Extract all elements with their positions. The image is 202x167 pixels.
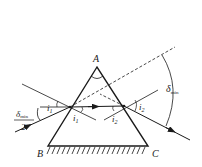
vertex-c-label: C: [152, 148, 159, 159]
half-deviation-arc: [37, 108, 40, 120]
incidence-angle-label: i1: [47, 103, 53, 114]
i1-incidence-arc: [57, 101, 58, 107]
exit-angle-label: i2: [139, 102, 145, 113]
half-deviation-numerator: δmin: [16, 109, 28, 119]
prism-svg: A B C i1 i1 i2 i2 δmin δmin 2: [0, 0, 202, 167]
emergent-arrow-icon: [166, 128, 174, 132]
i2-exit-arc: [135, 100, 137, 111]
vertex-b-label: B: [37, 148, 43, 159]
i1-refraction-arc: [81, 107, 83, 112]
apex-label: A: [92, 53, 100, 64]
refraction-angle-1-label: i1: [73, 113, 79, 124]
right-refraction-point: [123, 105, 126, 108]
left-normal-line: [22, 84, 96, 120]
refraction-angle-2-label: i2: [112, 114, 118, 125]
i2-refraction-arc: [113, 106, 114, 111]
apex-angle-arc: [91, 76, 103, 79]
prism-diagram: A B C i1 i1 i2 i2 δmin δmin 2: [0, 0, 202, 167]
base-hatching: [47, 147, 145, 154]
half-deviation-denominator: 2: [21, 122, 26, 132]
left-refraction-point: [69, 106, 72, 109]
incident-extension-dashed: [70, 47, 175, 107]
